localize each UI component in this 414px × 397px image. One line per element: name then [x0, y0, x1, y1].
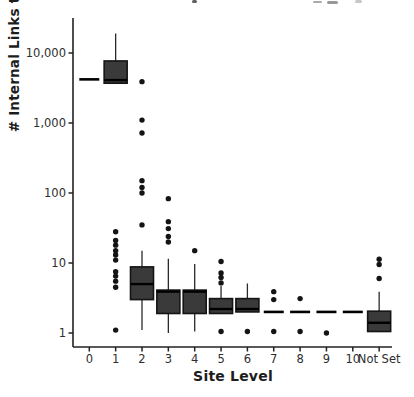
outlier-dot — [376, 276, 381, 281]
boxplot-box — [368, 311, 391, 331]
x-tick-label: 6 — [244, 352, 251, 366]
x-tick-label: 5 — [217, 352, 224, 366]
outlier-dot — [218, 280, 223, 285]
x-tick-label: 0 — [86, 352, 93, 366]
y-tick-label: 10,000 — [26, 46, 66, 60]
outlier-dot — [113, 242, 118, 247]
outlier-dot — [113, 273, 118, 278]
outlier-dot — [324, 330, 329, 335]
outlier-dot — [139, 190, 144, 195]
y-tick-label: 1,000 — [33, 116, 66, 130]
outlier-dot — [113, 238, 118, 243]
outlier-dot — [166, 226, 171, 231]
outlier-dot — [297, 329, 302, 334]
outlier-dot — [271, 289, 276, 294]
x-tick-label: 9 — [323, 352, 330, 366]
x-tick-label: 4 — [191, 352, 198, 366]
boxplot-box — [183, 290, 206, 313]
outlier-dot — [113, 257, 118, 262]
outlier-dot — [113, 229, 118, 234]
outlier-dot — [139, 79, 144, 84]
outlier-dot — [271, 297, 276, 302]
outlier-dot — [139, 178, 144, 183]
x-tick-label: Not Set — [358, 352, 401, 366]
outlier-dot — [139, 117, 144, 122]
y-axis-title: # Internal Links to URL — [6, 0, 26, 207]
outlier-dot — [166, 196, 171, 201]
outlier-dot — [376, 257, 381, 262]
x-tick-label: 7 — [270, 352, 277, 366]
outlier-dot — [271, 329, 276, 334]
outlier-dot — [166, 239, 171, 244]
outlier-dot — [113, 252, 118, 257]
outlier-dot — [218, 329, 223, 334]
y-tick-label: 10 — [51, 256, 66, 270]
outlier-dot — [218, 275, 223, 280]
boxplot-figure: 10,0001,000100101012345678910Not Set # I… — [0, 0, 414, 397]
x-tick-label: 8 — [296, 352, 303, 366]
outlier-dot — [166, 219, 171, 224]
outlier-dot — [376, 262, 381, 267]
outlier-dot — [245, 329, 250, 334]
y-tick-label: 1 — [59, 326, 66, 340]
outlier-dot — [192, 248, 197, 253]
outlier-dot — [113, 285, 118, 290]
outlier-dot — [139, 185, 144, 190]
boxplot-box — [210, 299, 233, 314]
y-tick-label: 100 — [44, 186, 66, 200]
outlier-dot — [218, 259, 223, 264]
x-axis-title: Site Level — [73, 368, 393, 384]
boxplot-box — [157, 290, 180, 313]
outlier-dot — [139, 222, 144, 227]
x-tick-label: 1 — [112, 352, 119, 366]
x-tick-label: 2 — [138, 352, 145, 366]
outlier-dot — [113, 278, 118, 283]
boxplot-canvas: 10,0001,000100101012345678910Not Set — [0, 0, 414, 397]
outlier-dot — [166, 234, 171, 239]
outlier-dot — [139, 130, 144, 135]
outlier-dot — [297, 296, 302, 301]
x-tick-label: 3 — [165, 352, 172, 366]
outlier-dot — [113, 327, 118, 332]
